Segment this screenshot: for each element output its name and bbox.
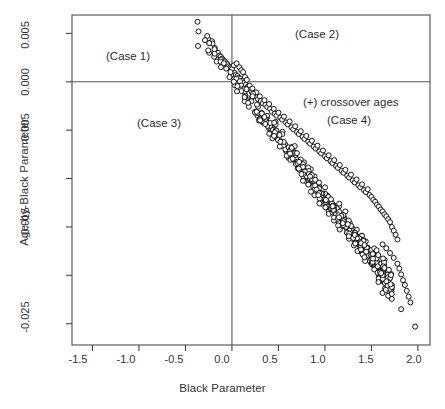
data-point: [254, 102, 259, 107]
data-point: [358, 247, 363, 252]
data-point: [360, 182, 365, 187]
data-point: [397, 266, 402, 271]
annotation-case-3: (Case 3): [137, 117, 181, 129]
data-point: [364, 249, 369, 254]
data-point: [234, 89, 239, 94]
data-point: [401, 278, 406, 283]
data-point: [345, 222, 350, 227]
data-point: [300, 178, 305, 183]
data-point: [404, 288, 409, 293]
data-point: [315, 143, 320, 148]
annotation-crossover-ages: (+) crossover ages: [303, 96, 399, 108]
data-point: [250, 94, 255, 99]
data-point: [294, 151, 299, 156]
data-point: [323, 185, 328, 190]
data-point: [267, 102, 272, 107]
x-tick-label-5: 1.0: [296, 353, 340, 365]
data-point: [289, 145, 294, 150]
data-point: [408, 300, 413, 305]
data-point: [332, 158, 337, 163]
data-point: [298, 129, 303, 134]
data-point: [380, 256, 385, 261]
annotation-case-4: (Case 4): [327, 114, 371, 126]
data-point: [395, 237, 400, 242]
data-point: [218, 65, 223, 70]
data-point: [384, 246, 389, 251]
data-point: [317, 180, 322, 185]
data-point: [316, 193, 321, 198]
data-point: [389, 273, 394, 278]
data-point: [376, 253, 381, 258]
data-point: [297, 159, 302, 164]
data-point: [254, 109, 259, 114]
data-point: [371, 256, 376, 261]
annotation-case-2: (Case 2): [295, 28, 339, 40]
data-point: [262, 98, 267, 103]
data-point: [365, 187, 370, 192]
data-point: [272, 120, 277, 125]
data-point: [379, 271, 384, 276]
data-point: [277, 144, 282, 149]
data-point: [206, 48, 211, 53]
data-point: [383, 287, 388, 292]
data-point: [386, 267, 391, 272]
data-point: [353, 241, 358, 246]
data-point: [362, 255, 367, 260]
data-point: [224, 66, 229, 71]
x-tick-label-2: -0.5: [152, 353, 196, 365]
scatter-plot-figure: -1.5 -1.0 -0.5 0.0 0.5 1.0 1.5 2.0 0.005…: [0, 0, 445, 409]
data-point: [287, 119, 292, 124]
data-point: [227, 75, 232, 80]
data-point: [336, 215, 341, 220]
data-point: [402, 283, 407, 288]
data-point: [337, 163, 342, 168]
scatter-points: [195, 19, 418, 329]
data-point: [391, 255, 396, 260]
data-point: [389, 291, 394, 296]
data-point: [244, 87, 249, 92]
data-point: [348, 172, 353, 177]
data-point: [241, 70, 246, 75]
x-tick-label-1: -1.0: [104, 353, 148, 365]
data-point: [296, 166, 301, 171]
data-point: [228, 70, 233, 75]
data-point: [393, 232, 398, 237]
data-point: [389, 296, 394, 301]
y-tick-label-0: 0.005: [19, 9, 31, 61]
data-point: [299, 172, 304, 177]
data-point: [374, 248, 379, 253]
data-point: [388, 282, 393, 287]
data-point: [323, 197, 328, 202]
y-axis-title: Age-by-Black Parameter: [18, 72, 30, 292]
data-point: [271, 106, 276, 111]
data-point: [308, 189, 313, 194]
data-point: [276, 110, 281, 115]
data-point: [321, 148, 326, 153]
data-point: [195, 19, 200, 24]
data-point: [235, 84, 240, 89]
data-point: [196, 43, 201, 48]
data-point: [329, 197, 334, 202]
x-tick-label-7: 2.0: [392, 353, 436, 365]
data-point: [267, 131, 272, 136]
x-tick-label-0: -1.5: [56, 353, 100, 365]
data-point: [290, 156, 295, 161]
annotation-case-1: (Case 1): [106, 50, 150, 62]
data-point: [399, 307, 404, 312]
data-point: [388, 251, 393, 256]
data-point: [343, 167, 348, 172]
data-point: [406, 294, 411, 299]
data-point: [399, 272, 404, 277]
data-point: [337, 201, 342, 206]
data-point: [309, 138, 314, 143]
data-point: [242, 95, 247, 100]
data-point: [237, 79, 242, 84]
x-tick-label-4: 0.5: [248, 353, 292, 365]
data-point: [375, 264, 380, 269]
data-point: [308, 174, 313, 179]
data-point: [293, 124, 298, 129]
data-point: [395, 261, 400, 266]
data-point: [288, 151, 293, 156]
data-point: [326, 153, 331, 158]
data-point: [212, 47, 217, 52]
